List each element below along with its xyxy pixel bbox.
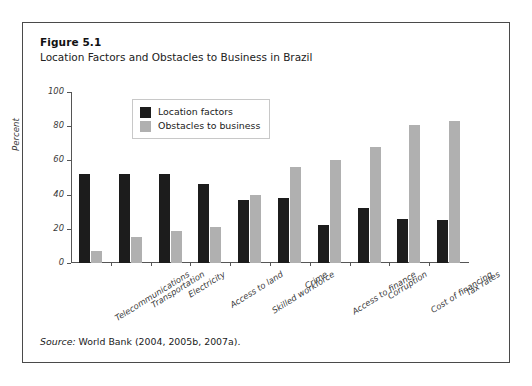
y-tick-label: 20 <box>53 223 64 233</box>
x-axis-category-label: Telecommunications <box>113 269 191 323</box>
y-tick-mark <box>67 195 71 196</box>
bar-location-factors <box>358 208 369 263</box>
bar-obstacles-to-business <box>91 251 102 263</box>
bar-obstacles-to-business <box>370 147 381 263</box>
bar-obstacles-to-business <box>330 160 341 263</box>
y-tick-label: 60 <box>53 154 64 164</box>
bar-location-factors <box>238 200 249 263</box>
legend-item-location-factors: Location factors <box>140 105 260 119</box>
y-axis-title: Percent <box>11 118 21 151</box>
y-tick-mark <box>67 263 71 264</box>
bar-location-factors <box>119 174 130 263</box>
x-tick-mark <box>111 262 112 266</box>
y-tick-mark <box>67 92 71 93</box>
figure-frame: Figure 5.1 Location Factors and Obstacle… <box>22 22 510 363</box>
source-label: Source: <box>40 336 76 347</box>
bar-group <box>437 92 461 263</box>
bar-location-factors <box>79 174 90 263</box>
bar-obstacles-to-business <box>171 231 182 263</box>
bar-location-factors <box>437 220 448 263</box>
x-tick-mark <box>350 262 351 266</box>
bar-group <box>278 92 302 263</box>
bar-location-factors <box>198 184 209 263</box>
bar-obstacles-to-business <box>290 167 301 263</box>
y-tick-label: 40 <box>53 189 64 199</box>
x-tick-mark <box>190 262 191 266</box>
bar-group <box>318 92 342 263</box>
legend-swatch-obstacles-to-business <box>140 121 151 132</box>
bar-location-factors <box>397 219 408 263</box>
y-tick-label: 80 <box>53 120 64 130</box>
chart-legend: Location factors Obstacles to business <box>132 99 270 139</box>
y-tick-label: 100 <box>48 86 64 96</box>
y-tick-mark <box>67 160 71 161</box>
legend-label-obstacles-to-business: Obstacles to business <box>158 120 260 132</box>
x-tick-mark <box>230 262 231 266</box>
x-tick-mark <box>151 262 152 266</box>
bar-location-factors <box>318 225 329 263</box>
legend-swatch-location-factors <box>140 107 151 118</box>
bar-group <box>358 92 382 263</box>
bar-group <box>397 92 421 263</box>
chart-plot: Percent 020406080100TelecommunicationsTr… <box>23 23 511 364</box>
bar-obstacles-to-business <box>131 237 142 263</box>
y-tick-label: 0 <box>59 257 64 267</box>
y-tick-mark <box>67 229 71 230</box>
bar-group <box>79 92 103 263</box>
source-note: Source: World Bank (2004, 2005b, 2007a). <box>40 336 240 347</box>
x-tick-mark <box>389 262 390 266</box>
bar-location-factors <box>278 198 289 263</box>
legend-label-location-factors: Location factors <box>158 106 233 118</box>
bar-obstacles-to-business <box>210 227 221 263</box>
x-tick-mark <box>429 262 430 266</box>
legend-item-obstacles-to-business: Obstacles to business <box>140 119 260 133</box>
bar-obstacles-to-business <box>409 125 420 264</box>
bar-location-factors <box>159 174 170 263</box>
source-text: World Bank (2004, 2005b, 2007a). <box>76 336 241 347</box>
y-tick-mark <box>67 126 71 127</box>
bar-obstacles-to-business <box>449 121 460 263</box>
bar-obstacles-to-business <box>250 195 261 263</box>
x-tick-mark <box>270 262 271 266</box>
x-axis-category-label: Access to finance <box>350 269 418 316</box>
x-tick-mark <box>310 262 311 266</box>
